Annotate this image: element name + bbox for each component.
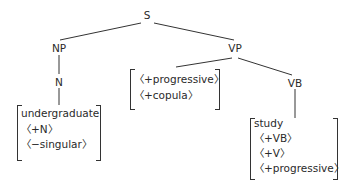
node-n: N [55,76,63,88]
feature-lexeme: study [254,116,344,131]
edge-vp-vb [238,58,292,75]
edge-s-np [60,23,141,40]
feature-item: 〈+V〉 [254,146,344,161]
node-vb: VB [288,77,302,89]
feature-item: 〈+copula〉 [134,88,224,104]
feature-item: 〈+VB〉 [254,131,344,146]
feature-lexeme: undergraduate [21,106,99,122]
feature-list: study 〈+VB〉 〈+V〉 〈+progressive〉 [254,116,344,176]
feature-list: 〈+progressive〉 〈+copula〉 [134,72,224,103]
node-vp: VP [228,42,242,54]
feature-item: 〈+progressive〉 [254,161,344,176]
feature-item: 〈+N〉 [21,122,99,138]
feature-list: undergraduate 〈+N〉 〈−singular〉 [21,106,99,153]
node-s: S [144,9,151,21]
feature-item: 〈+progressive〉 [134,72,224,88]
feature-item: 〈−singular〉 [21,137,99,153]
node-np: NP [52,42,66,54]
edge-s-vp [154,23,234,40]
edge-vp-bundle [176,58,232,67]
